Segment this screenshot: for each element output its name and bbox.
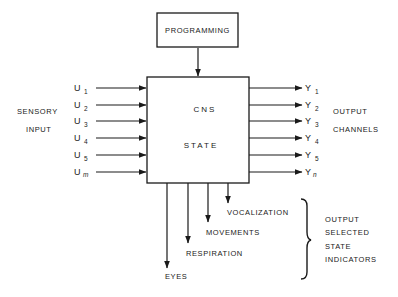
svg-text:4: 4 <box>315 138 319 145</box>
svg-text:2: 2 <box>84 105 88 112</box>
svg-text:4: 4 <box>84 138 88 145</box>
svg-text:INDICATORS: INDICATORS <box>325 255 377 264</box>
svg-text:5: 5 <box>315 155 319 162</box>
output-y2: Y 2 <box>249 100 319 112</box>
output-y5: Y 5 <box>249 150 319 162</box>
sensory-label: SENSORY <box>17 107 58 116</box>
output-y1: Y 1 <box>249 83 319 95</box>
svg-text:U: U <box>74 150 81 160</box>
svg-text:Y: Y <box>305 116 311 126</box>
input-label: INPUT <box>26 125 52 134</box>
state-indicators: VOCALIZATION MOVEMENTS RESPIRATION EYES <box>165 183 289 281</box>
output-y3: Y 3 <box>249 116 319 128</box>
curly-brace-icon <box>301 199 311 279</box>
input-channels: U 1 U 2 U 3 U 4 U 5 U m <box>74 83 146 178</box>
input-u4: U 4 <box>74 133 146 145</box>
input-u5: U 5 <box>74 150 146 162</box>
programming-block: PROGRAMMING <box>157 13 238 47</box>
input-u1: U 1 <box>74 83 146 95</box>
input-um: U m <box>74 167 146 178</box>
svg-text:3: 3 <box>84 121 88 128</box>
svg-text:U: U <box>74 116 81 126</box>
output-y4: Y 4 <box>249 133 319 145</box>
input-u3: U 3 <box>74 116 146 128</box>
movements-label: MOVEMENTS <box>206 228 260 237</box>
svg-text:U: U <box>74 133 81 143</box>
programming-label: PROGRAMMING <box>165 26 230 35</box>
indicator-group-label: OUTPUT SELECTED STATE INDICATORS <box>325 215 377 264</box>
svg-text:Y: Y <box>305 150 311 160</box>
svg-text:3: 3 <box>315 121 319 128</box>
svg-text:OUTPUT: OUTPUT <box>325 215 359 224</box>
svg-text:Y: Y <box>305 167 311 177</box>
svg-text:U: U <box>74 100 81 110</box>
svg-text:1: 1 <box>84 88 88 95</box>
svg-text:U: U <box>74 167 81 177</box>
vocalization-label: VOCALIZATION <box>227 208 289 217</box>
output-channels: Y 1 Y 2 Y 3 Y 4 Y 5 Y n <box>249 83 319 178</box>
cns-label: CNS <box>194 105 217 114</box>
svg-text:SELECTED: SELECTED <box>325 228 369 237</box>
eyes-label: EYES <box>165 272 187 281</box>
svg-text:Y: Y <box>305 133 311 143</box>
respiration-label: RESPIRATION <box>186 249 243 258</box>
svg-text:Y: Y <box>305 83 311 93</box>
svg-text:2: 2 <box>315 105 319 112</box>
state-label: STATE <box>184 141 219 150</box>
svg-text:5: 5 <box>84 155 88 162</box>
channels-label: CHANNELS <box>333 125 379 134</box>
cns-block-diagram: PROGRAMMING CNS STATE SENSORY INPUT U 1 … <box>0 0 398 297</box>
svg-text:STATE: STATE <box>325 242 351 251</box>
svg-text:U: U <box>74 83 81 93</box>
svg-text:n: n <box>313 171 317 178</box>
svg-text:Y: Y <box>305 100 311 110</box>
output-yn: Y n <box>249 167 317 178</box>
svg-text:1: 1 <box>315 88 319 95</box>
cns-state-block: CNS STATE <box>147 77 249 183</box>
input-u2: U 2 <box>74 100 146 112</box>
svg-text:m: m <box>83 171 89 178</box>
output-label: OUTPUT <box>333 107 367 116</box>
